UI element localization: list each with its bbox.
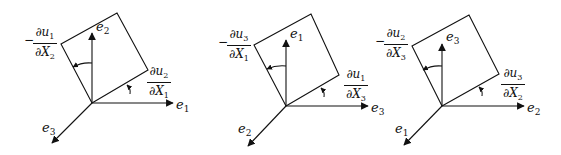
panel-3-horizontal-axis-label: e2 xyxy=(527,101,540,117)
panel-2-vertical-axis-label: e1 xyxy=(290,27,303,43)
rotated-square xyxy=(412,15,499,106)
panel-1-vertical-axis-label: e2 xyxy=(96,20,109,36)
panel-3-left-angle-label: ∂u2 ∂X3 xyxy=(384,27,408,62)
left-angle-arc xyxy=(73,63,92,67)
panel-2-left-angle-label: ∂u3 ∂X1 xyxy=(227,28,251,63)
diagonal-axis-arrow xyxy=(404,106,442,145)
panel-3-diagonal-axis-label: e1 xyxy=(395,122,408,138)
panel-1-diagonal-axis-label: e3 xyxy=(42,121,55,137)
right-angle-arc xyxy=(479,87,482,96)
left-angle-arc xyxy=(423,66,442,70)
right-angle-arc xyxy=(321,88,324,97)
right-angle-arc xyxy=(127,85,130,94)
diagonal-axis-arrow xyxy=(248,106,286,146)
panel-1-right-angle-label: ∂u2 ∂X1 xyxy=(147,65,171,100)
left-angle-arc xyxy=(267,66,286,69)
diagram-canvas xyxy=(0,0,561,155)
panel-3-right-angle-label: ∂u3 ∂X2 xyxy=(501,67,525,102)
panel-2-horizontal-axis-label: e3 xyxy=(371,101,384,117)
panel-2-right-angle-label: ∂u1 ∂X3 xyxy=(344,68,368,103)
panel-2-diagonal-axis-label: e2 xyxy=(238,122,251,138)
panel-3-vertical-axis-label: e3 xyxy=(446,30,459,46)
panel-1-left-angle-label: ∂u1 ∂X2 xyxy=(33,26,57,61)
panel-1-horizontal-axis-label: e1 xyxy=(176,98,189,114)
diagonal-axis-arrow xyxy=(52,103,92,143)
